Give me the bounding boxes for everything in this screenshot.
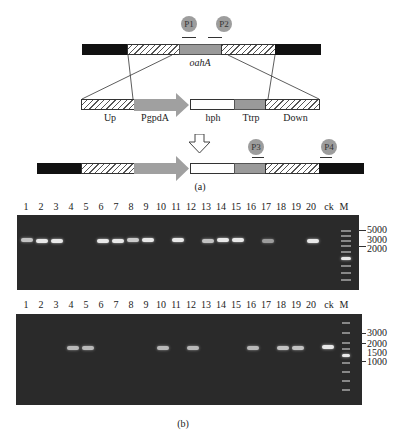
lane-label: 5: [78, 299, 94, 310]
band: [82, 346, 94, 350]
lane-label: 7: [108, 299, 124, 310]
lane-label: M: [336, 299, 352, 310]
lane-label: 2: [33, 201, 49, 212]
lane-label: 10: [153, 299, 169, 310]
mut-pgpda-arrow-icon: [134, 156, 190, 181]
ladder-band: [342, 371, 350, 373]
lane-label: 14: [213, 299, 229, 310]
lane-label: 19: [288, 201, 304, 212]
band: [217, 238, 229, 242]
gel1-lane-labels: 1 2 3 4 5 6 7 8 9 10 11 12 13 14 15 16 1…: [17, 201, 362, 215]
size-tick: [361, 333, 366, 334]
mut-up: [81, 163, 135, 174]
lane-label: 9: [138, 201, 154, 212]
lane-label: 17: [258, 201, 274, 212]
label-ttrp: Ttrp: [236, 112, 266, 123]
lane-label: 8: [123, 201, 139, 212]
lane-label: ck: [321, 201, 337, 212]
lane-label: 16: [243, 299, 259, 310]
lane-label: 7: [108, 201, 124, 212]
lane-label: 4: [63, 299, 79, 310]
lane-label: 15: [228, 201, 244, 212]
lane-label: 10: [153, 201, 169, 212]
band: [127, 238, 139, 242]
lane-label: 12: [183, 299, 199, 310]
primer-p4-arrow: [320, 157, 332, 158]
lane-label: 18: [273, 299, 289, 310]
gel1-image: [17, 215, 359, 290]
band: [292, 346, 304, 350]
lane-label: 13: [198, 201, 214, 212]
lane-label: 11: [168, 299, 184, 310]
ladder-band: [341, 235, 351, 237]
label-down: Down: [278, 112, 313, 123]
band: [307, 239, 319, 243]
recombination-lines: [0, 0, 408, 110]
primer-p3-arrow: [252, 157, 264, 158]
lane-label: 15: [228, 299, 244, 310]
lane-label: 5: [78, 201, 94, 212]
ladder-band: [341, 245, 351, 247]
lane-label: 16: [243, 201, 259, 212]
lane-label: 3: [48, 201, 64, 212]
band: [322, 345, 334, 349]
lane-label: 11: [168, 201, 184, 212]
ladder-band: [342, 354, 350, 357]
label-up: Up: [95, 112, 125, 123]
down-arrow-icon: [189, 134, 211, 154]
band: [187, 346, 199, 350]
mut-hph: [190, 163, 235, 174]
gel2-lane-labels: 1 2 3 4 5 6 7 8 9 10 11 12 13 14 15 16 1…: [17, 299, 362, 313]
primer-p4: P4: [321, 139, 337, 155]
ladder-band: [342, 348, 350, 350]
lane-label: 2: [33, 299, 49, 310]
lane-label: 6: [93, 201, 109, 212]
lane-label: 6: [93, 299, 109, 310]
ladder-band: [342, 342, 350, 344]
band: [67, 346, 79, 350]
lane-label: ck: [321, 299, 337, 310]
size-marker-2000: 2000: [367, 243, 387, 254]
construct-ttrp: [234, 99, 266, 110]
size-tick: [361, 343, 366, 344]
band: [202, 239, 214, 243]
ladder-band: [342, 332, 350, 334]
band: [172, 238, 184, 242]
mut-ttrp: [234, 163, 266, 174]
band: [112, 239, 124, 243]
ladder-band: [341, 265, 351, 267]
band: [262, 239, 274, 243]
mut-flank-left: [37, 163, 82, 174]
caption-a: (a): [190, 181, 210, 192]
panel-a: P1 P2 oahA Up PgpdA hph Ttrp Down P3 P4 …: [0, 0, 408, 196]
label-pgpda: PgpdA: [135, 112, 175, 123]
caption-b: (b): [173, 418, 193, 429]
ladder-band: [341, 230, 351, 232]
ladder-band: [342, 380, 350, 382]
mut-flank-right: [319, 163, 364, 174]
lane-label: 13: [198, 299, 214, 310]
lane-label: 9: [138, 299, 154, 310]
size-marker-3000: 3000: [367, 327, 387, 338]
ladder-band: [341, 272, 351, 274]
gel2-image: [16, 314, 362, 405]
lane-label: 1: [18, 299, 34, 310]
ladder-band: [341, 257, 351, 260]
band: [247, 346, 259, 350]
lane-label: 3: [48, 299, 64, 310]
mut-down: [265, 163, 320, 174]
lane-label: 1: [18, 201, 34, 212]
ladder-band: [341, 240, 351, 242]
ladder-band: [342, 389, 350, 391]
lane-label: 19: [288, 299, 304, 310]
lane-label: 14: [213, 201, 229, 212]
label-hph: hph: [198, 112, 228, 123]
size-tick: [358, 230, 366, 231]
band: [97, 239, 109, 243]
lane-label: 8: [123, 299, 139, 310]
lane-label: 4: [63, 201, 79, 212]
band: [36, 239, 48, 243]
construct-hph: [190, 99, 235, 110]
band: [142, 238, 154, 242]
ladder-band: [341, 279, 351, 281]
